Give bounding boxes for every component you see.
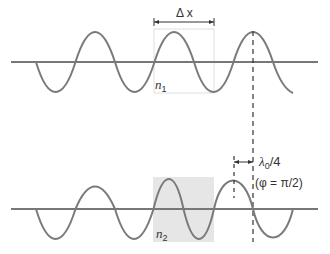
quarter-wavelength-arrow: [234, 160, 253, 164]
wave-phase-diagram: Δ x n1 λ0/4 (φ = π/2) n2: [0, 0, 330, 254]
top-panel: Δ x n1: [11, 6, 318, 94]
n1-label: n1: [155, 77, 167, 94]
delta-x-label: Δ x: [176, 6, 193, 20]
quarter-wavelength-label: λ0/4: [258, 154, 281, 171]
phase-label: (φ = π/2): [255, 176, 303, 190]
bottom-panel: λ0/4 (φ = π/2) n2: [11, 154, 318, 243]
